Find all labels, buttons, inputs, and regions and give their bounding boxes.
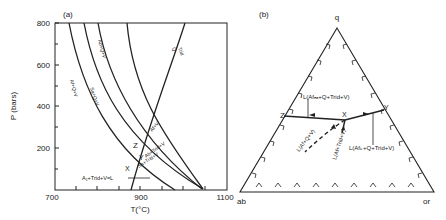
point-x: X (125, 165, 130, 172)
point-z-b: Z (280, 111, 285, 120)
y-tick-800: 800 (37, 19, 51, 28)
point-y: Y (139, 154, 144, 161)
corner-ab: ab (237, 197, 246, 206)
point-x-b: X (342, 111, 347, 118)
x-axis-label: T(°C) (130, 205, 150, 214)
y-tick-400: 400 (37, 102, 51, 111)
point-y-b: Y (384, 104, 389, 111)
ternary-triangle (240, 28, 434, 192)
label-l-k: L(Afₖ+Q+Trid+V) (349, 145, 394, 151)
point-z: Z (133, 141, 138, 150)
label-sa-q-v: Sa+Q+V (89, 86, 101, 107)
figure: (a) 800 600 400 200 700 900 1100 T(°C) P… (0, 0, 446, 220)
curve-af-q-v (69, 23, 175, 190)
y-axis-label: P (bars) (9, 92, 18, 121)
panel-b-label: (b) (259, 10, 269, 19)
label-l-na: L(Afₙₐ+Q+Trid+V) (303, 94, 350, 100)
annotation-af-trid-v-l: A₁+Trid+V=L (82, 175, 113, 181)
label-l-af-q-v: L(Af+Q+V) (295, 128, 316, 153)
x-tick-700: 700 (45, 193, 59, 202)
panel-b: (b) q ab or Z Y X L(Afₙₐ+Q+Trid+ (237, 10, 434, 206)
panel-a-label: (a) (63, 10, 73, 19)
label-q: Q (171, 46, 178, 52)
x-tick-900: 900 (134, 193, 148, 202)
corner-or: or (423, 197, 430, 206)
label-ab-q-v: Ab+Q+V (97, 39, 108, 60)
y-tick-200: 200 (37, 144, 51, 153)
label-l-af-trid-v: L(Af+Trid+V) (331, 129, 346, 161)
y-tick-600: 600 (37, 61, 51, 70)
label-trid: Trid (177, 46, 186, 56)
label-af-q-v: Af+Q+V (69, 79, 80, 98)
apex-q: q (335, 13, 339, 22)
panel-a: (a) 800 600 400 200 700 900 1100 T(°C) P… (9, 10, 234, 214)
x-tick-1100: 1100 (216, 193, 234, 202)
